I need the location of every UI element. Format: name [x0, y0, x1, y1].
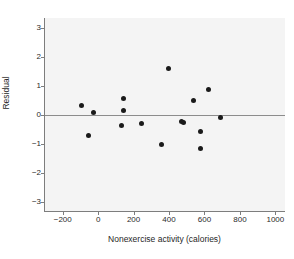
data-point: [86, 133, 91, 138]
data-point: [159, 142, 164, 147]
residual-scatter-plot: 3210−1−2−3 −20002004006008001000 Nonexer…: [0, 0, 294, 259]
data-point: [198, 146, 203, 151]
plot-inner: [45, 18, 285, 211]
x-tick-label: 0: [96, 216, 100, 224]
y-axis-title: Residual: [1, 63, 11, 123]
x-tick-label: 200: [127, 216, 140, 224]
x-tick-label: −200: [54, 216, 72, 224]
y-tick-mark: [41, 57, 45, 58]
y-tick-label: −2: [32, 169, 41, 177]
x-tick-label: 1000: [266, 216, 284, 224]
x-axis-title: Nonexercise activity (calories): [44, 234, 285, 244]
x-tick-label: 400: [162, 216, 175, 224]
y-tick-label: 2: [37, 53, 41, 61]
data-point: [139, 121, 144, 126]
data-point: [121, 108, 126, 113]
data-point: [79, 103, 84, 108]
x-tick-label: 600: [198, 216, 211, 224]
y-tick-mark: [41, 86, 45, 87]
zero-reference-line: [45, 115, 285, 116]
data-point: [166, 66, 171, 71]
data-point: [191, 98, 196, 103]
data-point: [121, 96, 126, 101]
y-tick-mark: [41, 144, 45, 145]
data-point: [181, 120, 186, 125]
plot-area: 3210−1−2−3 −20002004006008001000: [44, 18, 285, 212]
y-tick-mark: [41, 202, 45, 203]
y-tick-label: −1: [32, 140, 41, 148]
y-tick-mark: [41, 28, 45, 29]
y-tick-label: 0: [37, 111, 41, 119]
y-tick-mark: [41, 173, 45, 174]
data-point: [218, 115, 223, 120]
x-tick-label: 800: [233, 216, 246, 224]
y-tick-label: 3: [37, 24, 41, 32]
y-tick-label: −3: [32, 198, 41, 206]
data-point: [206, 87, 211, 92]
data-point: [119, 123, 124, 128]
data-point: [198, 129, 203, 134]
y-tick-mark: [41, 115, 45, 116]
y-tick-label: 1: [37, 82, 41, 90]
